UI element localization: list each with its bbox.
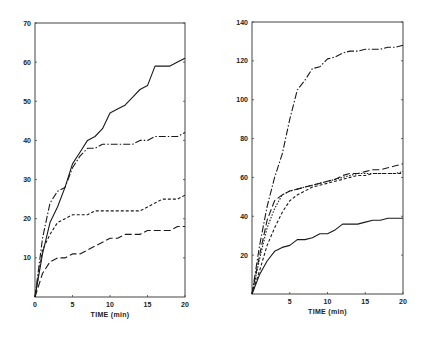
y-tick-label: 60 [23,59,31,66]
series-line-long-dash [35,227,185,298]
x-tick-label: 20 [399,298,407,305]
x-tick-label: 5 [288,298,292,305]
x-tick-label: 15 [361,298,369,305]
y-tick-label: 80 [240,135,248,142]
y-tick-label: 100 [236,96,248,103]
series-line-solid [35,58,185,297]
series-line-short-dash [35,195,185,297]
y-tick-label: 60 [240,174,248,181]
y-tick-label: 70 [23,20,31,27]
x-axis-title: TIME (min) [308,308,347,316]
series-line-solid [252,218,403,294]
x-tick-label: 10 [106,301,114,308]
right-chart: 204060801001201405101520TIME (min) [236,19,407,317]
series-line-long-dash [252,164,403,294]
x-tick-label: 5 [71,301,75,308]
y-tick-label: 120 [236,57,248,64]
y-tick-label: 40 [23,137,31,144]
series-line-dash-dot [35,133,185,297]
y-tick-label: 140 [236,19,248,26]
series-line-dotted [252,172,403,294]
y-tick-label: 40 [240,213,248,220]
plot-frame [35,23,185,297]
x-axis-title: TIME (min) [91,311,130,319]
y-tick-label: 50 [23,98,31,105]
y-tick-label: 20 [240,252,248,259]
plot-frame [252,22,403,294]
chart-figure: 1020304050607005101520TIME (min) 2040608… [0,0,426,337]
x-tick-label: 15 [144,301,152,308]
y-tick-label: 30 [23,176,31,183]
x-tick-label: 10 [324,298,332,305]
y-tick-label: 20 [23,215,31,222]
y-tick-label: 10 [23,254,31,261]
series-line-dash-dot [252,45,403,294]
x-tick-label: 20 [181,301,189,308]
left-chart: 1020304050607005101520TIME (min) [23,20,189,320]
x-tick-label: 0 [33,301,37,308]
